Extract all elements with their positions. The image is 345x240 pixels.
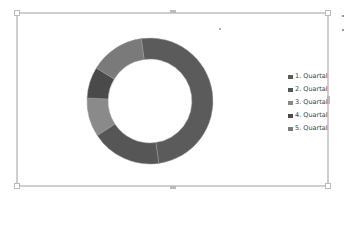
legend-item: 2. Quartal — [288, 83, 328, 96]
legend-swatch-icon — [288, 75, 293, 79]
legend-swatch-icon — [288, 127, 293, 131]
legend-swatch-icon — [288, 114, 293, 118]
legend-item: 3. Quartal — [288, 96, 328, 109]
legend-item: 5. Quartal — [288, 122, 328, 135]
donut-slice[interactable] — [97, 124, 158, 164]
legend-label: 4. Quartal — [295, 109, 328, 122]
chart-legend: 1. Quartal 2. Quartal 3. Quartal 4. Quar… — [288, 70, 328, 135]
legend-label: 3. Quartal — [295, 96, 328, 109]
legend-label: 1. Quartal — [295, 70, 328, 83]
legend-item: 1. Quartal — [288, 70, 328, 83]
legend-label: 5. Quartal — [295, 122, 328, 135]
legend-item: 4. Quartal — [288, 109, 328, 122]
legend-label: 2. Quartal — [295, 83, 328, 96]
legend-swatch-icon — [288, 101, 293, 105]
legend-swatch-icon — [288, 88, 293, 92]
